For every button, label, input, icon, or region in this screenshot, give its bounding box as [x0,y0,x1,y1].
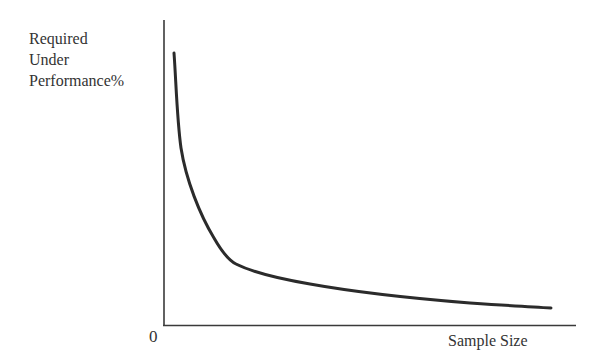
origin-label: 0 [149,327,158,347]
chart-plot-area [0,0,603,364]
x-axis-label: Sample Size [448,332,528,350]
data-curve [174,53,551,308]
